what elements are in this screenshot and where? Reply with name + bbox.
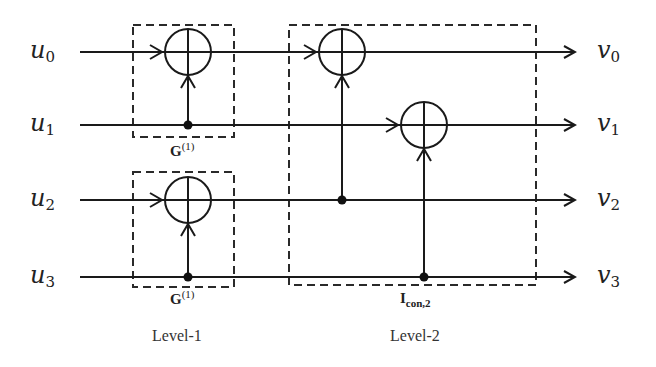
g1-bottom-box bbox=[133, 172, 234, 287]
output-label-v2: v2 bbox=[597, 184, 620, 214]
level-2-label: Level-2 bbox=[390, 327, 440, 345]
g1-top-label: G(1) bbox=[170, 140, 195, 160]
output-label-v3: v3 bbox=[597, 261, 620, 291]
level-1-label: Level-1 bbox=[152, 327, 202, 345]
icon-box bbox=[289, 25, 536, 285]
control-dot-icon bbox=[338, 196, 347, 205]
output-label-v1: v1 bbox=[597, 109, 620, 139]
control-dot-icon bbox=[184, 121, 193, 130]
g1-bottom-label: G(1) bbox=[170, 288, 195, 308]
input-label-u3: u3 bbox=[30, 261, 55, 291]
g1-top-box bbox=[133, 25, 234, 137]
input-label-u1: u1 bbox=[30, 109, 55, 139]
input-label-u0: u0 bbox=[30, 36, 55, 66]
control-dot-icon bbox=[184, 273, 193, 282]
control-dot-icon bbox=[420, 273, 429, 282]
circuit-diagram bbox=[0, 0, 656, 367]
input-label-u2: u2 bbox=[30, 184, 55, 214]
output-label-v0: v0 bbox=[597, 36, 620, 66]
icon-label: Icon,2 bbox=[400, 290, 431, 309]
